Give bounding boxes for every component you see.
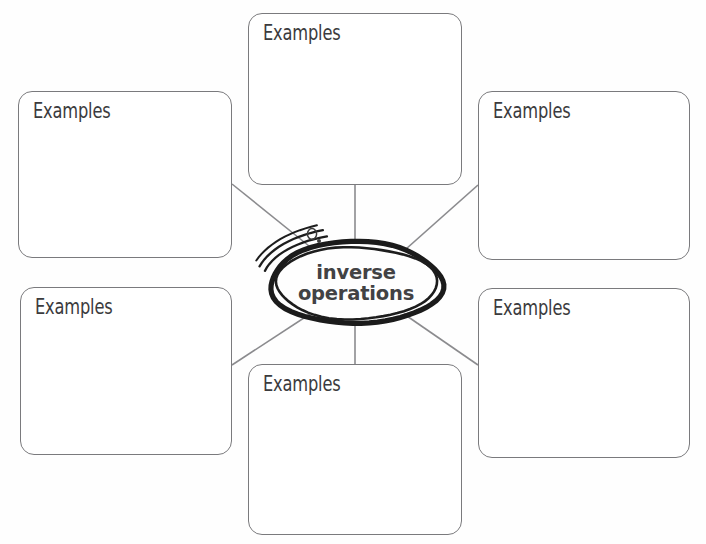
- examples-box-top-left[interactable]: Examples: [18, 91, 232, 258]
- examples-box-bottom-center[interactable]: Examples: [248, 364, 462, 535]
- examples-label: Examples: [263, 21, 341, 45]
- link-bottom-left: [232, 314, 310, 365]
- examples-label: Examples: [493, 99, 571, 123]
- examples-box-top-center[interactable]: Examples: [248, 13, 462, 185]
- examples-box-bottom-right[interactable]: Examples: [478, 288, 690, 458]
- examples-label: Examples: [35, 295, 113, 319]
- diagram-canvas: Examples Examples Examples Examples Exam…: [0, 0, 706, 544]
- link-bottom-right: [404, 314, 478, 365]
- examples-box-bottom-left[interactable]: Examples: [20, 287, 232, 455]
- link-top-left: [232, 184, 309, 246]
- link-top-right: [406, 185, 478, 249]
- examples-box-top-right[interactable]: Examples: [478, 91, 690, 260]
- examples-label: Examples: [493, 296, 571, 320]
- examples-label: Examples: [263, 372, 341, 396]
- examples-label: Examples: [33, 99, 111, 123]
